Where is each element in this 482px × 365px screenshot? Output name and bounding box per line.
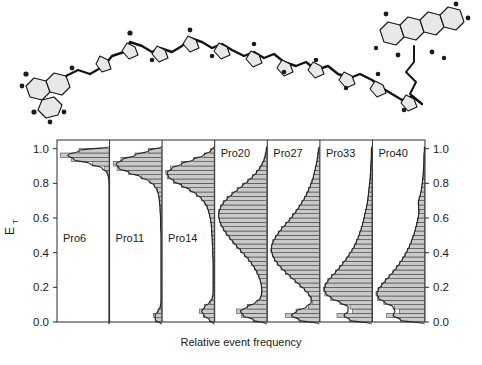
histogram-bar [289, 218, 319, 222]
histogram-bar [361, 227, 372, 231]
histogram-bar [300, 283, 319, 287]
y-tick-label-right: 0.4 [433, 247, 450, 259]
histogram-bar [281, 266, 319, 270]
histogram-bar [354, 244, 371, 248]
histogram-bar [350, 305, 372, 309]
histogram-bar [414, 231, 424, 235]
histogram-bar [205, 201, 214, 205]
histogram-bar [285, 270, 319, 274]
histogram-bar [248, 179, 267, 183]
histogram-bar [223, 201, 267, 205]
histogram-bar [167, 175, 214, 179]
histogram-bar [243, 183, 267, 187]
histogram-bar [387, 313, 425, 317]
histogram-bar [325, 292, 372, 296]
molecule-acceptor-dye-left [20, 66, 90, 125]
histogram-panel-pro20 [218, 147, 266, 325]
histogram-bar [261, 296, 267, 300]
histogram-bar [221, 222, 267, 226]
histogram-bar [244, 253, 266, 257]
histogram-bar [293, 214, 320, 218]
histogram-bar [307, 192, 320, 196]
histogram-bar [363, 222, 372, 226]
histogram-bar [309, 305, 320, 309]
histogram-bar [271, 248, 319, 252]
histogram-bar [352, 309, 371, 313]
histogram-bar [197, 192, 214, 196]
histogram-bar [171, 166, 215, 170]
histogram-bar [237, 244, 267, 248]
histogram-bar [117, 166, 162, 170]
histogram-bar [190, 188, 214, 192]
histogram-bar [393, 270, 424, 274]
molecule-panel [0, 0, 482, 132]
histogram-bar [312, 296, 320, 300]
y-tick-label-right: 0.6 [433, 212, 449, 224]
histogram-bar [202, 196, 215, 200]
histogram-bar [417, 222, 425, 226]
histogram-bar [349, 253, 372, 257]
panel-label-pro27: Pro27 [273, 147, 302, 159]
histogram-bar [367, 201, 371, 205]
molecule-structure-svg [0, 0, 482, 132]
histogram-bar [389, 274, 424, 278]
panel-label-pro20: Pro20 [221, 147, 250, 159]
histogram-bar [237, 188, 267, 192]
histogram-bar [305, 287, 320, 291]
histogram-bar [295, 279, 319, 283]
histogram-bar [262, 292, 267, 296]
histogram-bar [226, 231, 267, 235]
histogram-bar [332, 274, 372, 278]
histogram-bar [262, 287, 267, 291]
histogram-bar [385, 279, 424, 283]
histogram-bar [309, 292, 320, 296]
histogram-bar [360, 231, 372, 235]
histogram-bar [275, 235, 319, 239]
y-tick-label-right: 0.0 [433, 316, 449, 328]
histogram-bar [328, 279, 372, 283]
histogram-bar [257, 270, 267, 274]
figure-root: Pro6Pro11Pro14Pro20Pro27Pro33Pro400.00.0… [0, 0, 482, 365]
y-axis-title-subscript: T [11, 219, 20, 224]
histogram-bar [227, 196, 267, 200]
histogram-bar [113, 162, 161, 166]
histogram-bar [309, 188, 320, 192]
histogram-bar [413, 235, 425, 239]
histogram-bar [346, 257, 372, 261]
histogram-bar [409, 244, 424, 248]
histogram-bar [277, 261, 319, 265]
histogram-bar [241, 248, 267, 252]
histogram-bar [325, 283, 372, 287]
histogram-bar [233, 240, 267, 244]
histogram-bar [104, 166, 109, 170]
y-tick-label-right: 0.8 [433, 177, 449, 189]
histogram-bar [416, 227, 425, 231]
histogram-bar [223, 227, 267, 231]
y-axis-title: ET [3, 219, 20, 235]
histogram-bar [343, 261, 372, 265]
histogram-bar [182, 183, 214, 187]
histogram-bar [376, 292, 424, 296]
y-tick-label-left: 1.0 [33, 143, 49, 155]
histogram-panel-pro40 [376, 147, 424, 325]
histogram-bar [313, 175, 319, 179]
molecule-donor-dye-right [374, 2, 471, 104]
histogram-bar [271, 244, 319, 248]
histogram-bar [153, 313, 161, 317]
histogram-bar [150, 179, 162, 183]
histogram-bar [218, 214, 266, 218]
histogram-bar [419, 214, 425, 218]
histogram-bar [248, 257, 266, 261]
histogram-bar [304, 196, 319, 200]
histogram-bar [285, 222, 319, 226]
panel-label-pro40: Pro40 [378, 147, 407, 159]
histogram-bar [274, 257, 319, 261]
histogram-bar [311, 183, 320, 187]
histogram-bar [302, 201, 319, 205]
histogram-bar [282, 227, 320, 231]
histogram-bar [259, 274, 267, 278]
histogram-bar [377, 296, 424, 300]
histogram-bar [273, 240, 319, 244]
histogram-bar [364, 218, 372, 222]
histogram-bar [378, 287, 424, 291]
